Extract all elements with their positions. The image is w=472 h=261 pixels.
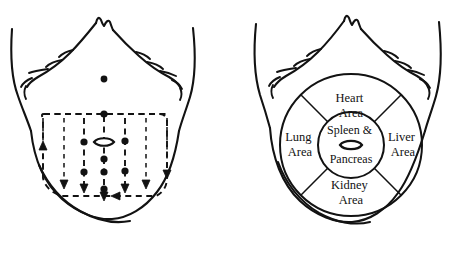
sternum-notch-right-panel bbox=[344, 16, 361, 29]
zone-label-heart-line1: Heart bbox=[336, 91, 364, 105]
spoke-upper-left bbox=[301, 95, 328, 122]
pressure-point-epigastric bbox=[101, 76, 108, 83]
torso-right-flank-right-panel bbox=[425, 22, 441, 131]
diagram-root: Heart Area Lung Area Liver Area Kidney A… bbox=[0, 0, 472, 261]
rib-hatch-rp-right-5 bbox=[428, 87, 430, 99]
arrow-down-icon-col7 bbox=[163, 170, 171, 179]
zone-label-lung: Lung Area bbox=[285, 130, 315, 159]
rib-hatch-right-5 bbox=[180, 88, 182, 100]
zone-label-kidney: Kidney Area bbox=[331, 178, 371, 207]
zone-label-liver-line1: Liver bbox=[388, 130, 416, 144]
zone-label-liver-line2: Area bbox=[391, 145, 416, 159]
zone-label-center-line1: Spleen & bbox=[327, 123, 373, 137]
spoke-lower-left bbox=[301, 168, 328, 195]
pressure-point-right-low bbox=[121, 167, 128, 174]
zone-label-heart: Heart Area bbox=[336, 91, 367, 120]
pressure-point-center-3 bbox=[100, 185, 107, 192]
arrow-down-icon-col6 bbox=[142, 180, 150, 189]
arrow-up-icon-col1 bbox=[39, 141, 47, 150]
sternum-notch bbox=[96, 18, 113, 30]
zone-label-heart-line2: Area bbox=[339, 106, 364, 120]
pressure-point-left-mid bbox=[80, 138, 87, 145]
zone-label-center-line2: Pancreas bbox=[330, 152, 373, 166]
arrow-down-icon-col5 bbox=[121, 184, 129, 193]
pressure-point-right-mid bbox=[121, 137, 128, 144]
pressure-point-center-2 bbox=[100, 168, 107, 175]
zone-label-lung-line1: Lung bbox=[285, 130, 312, 144]
navel-lens-icon bbox=[94, 138, 114, 146]
arrow-down-icon-col3 bbox=[80, 184, 88, 193]
navel-lens-icon-right-panel bbox=[340, 141, 362, 149]
costal-margin-right bbox=[113, 30, 180, 87]
zone-label-kidney-line2: Area bbox=[339, 193, 364, 207]
torso-right-flank bbox=[179, 28, 195, 131]
zone-label-kidney-line1: Kidney bbox=[331, 178, 369, 192]
pressure-point-top-center bbox=[100, 110, 107, 117]
arrow-left-icon-bottom bbox=[111, 192, 120, 200]
rib-hatch-rp-left-5 bbox=[272, 85, 274, 98]
zone-label-liver: Liver Area bbox=[388, 130, 418, 159]
costal-margin-right-right-panel bbox=[361, 29, 428, 87]
spoke-lower-right bbox=[374, 168, 401, 195]
pressure-point-left-low bbox=[80, 168, 87, 175]
pressure-point-center-1 bbox=[100, 155, 107, 162]
spoke-upper-right bbox=[374, 95, 401, 122]
zone-label-lung-line2: Area bbox=[288, 145, 313, 159]
palpation-direction-panel bbox=[0, 0, 236, 261]
rib-hatch-left-5 bbox=[25, 86, 27, 99]
torso-left-flank-right-panel bbox=[255, 24, 270, 128]
organ-zone-panel: Heart Area Lung Area Liver Area Kidney A… bbox=[236, 0, 472, 261]
arrow-down-icon-col2 bbox=[60, 180, 68, 189]
